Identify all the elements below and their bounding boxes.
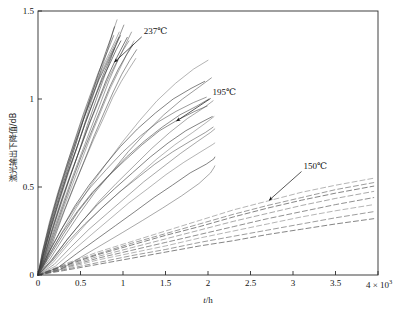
data-curve [38, 198, 374, 275]
x-axis-tick-label: 2.5 [245, 279, 256, 288]
x-axis-multiplier-base: 4 × 10 [366, 280, 389, 290]
annotation-label-237c: 237℃ [144, 26, 168, 36]
annotation-arrow [177, 98, 211, 121]
data-curve [38, 60, 208, 275]
series-group-150 [38, 178, 374, 275]
annotation-arrow [269, 172, 301, 201]
x-axis-tick-label: 2 [206, 279, 211, 288]
x-axis-tick-label: 1.5 [160, 279, 171, 288]
x-axis-tick-label: 0 [36, 279, 41, 288]
x-axis-title-unit: /h [206, 295, 213, 305]
y-axis-tick-label: 1.5 [10, 7, 34, 16]
x-axis-tick-label: 0.5 [75, 279, 86, 288]
y-axis-tick-label: 1 [16, 95, 34, 104]
chart-plot-area [0, 0, 401, 313]
plot-frame [38, 11, 378, 275]
annotation-label-195c: 195℃ [213, 87, 237, 97]
series-group-195 [38, 60, 215, 275]
chart-curves-layer [38, 20, 374, 275]
x-axis-tick-label: 3 [291, 279, 296, 288]
series-group-237 [38, 20, 137, 275]
data-curve [38, 186, 374, 275]
annotation-label-150c: 150℃ [304, 161, 328, 171]
y-axis-title: 激光输出下降值/dB [7, 98, 18, 198]
x-axis-multiplier: 4 × 103 [366, 278, 392, 290]
data-curve [38, 219, 374, 275]
annotation-arrow [115, 37, 142, 62]
chart-axis-frame [38, 11, 378, 275]
x-axis-title: t/h [203, 295, 213, 305]
x-axis-tick-label: 1 [121, 279, 126, 288]
chart-figure: 0 0.5 1 1.5 0 0.5 1 1.5 2 2.5 3 3.5 4 × … [0, 0, 401, 313]
x-axis-multiplier-exponent: 3 [389, 278, 392, 285]
y-axis-tick-label: 0 [16, 271, 34, 280]
x-axis-tick-label: 3.5 [330, 279, 341, 288]
